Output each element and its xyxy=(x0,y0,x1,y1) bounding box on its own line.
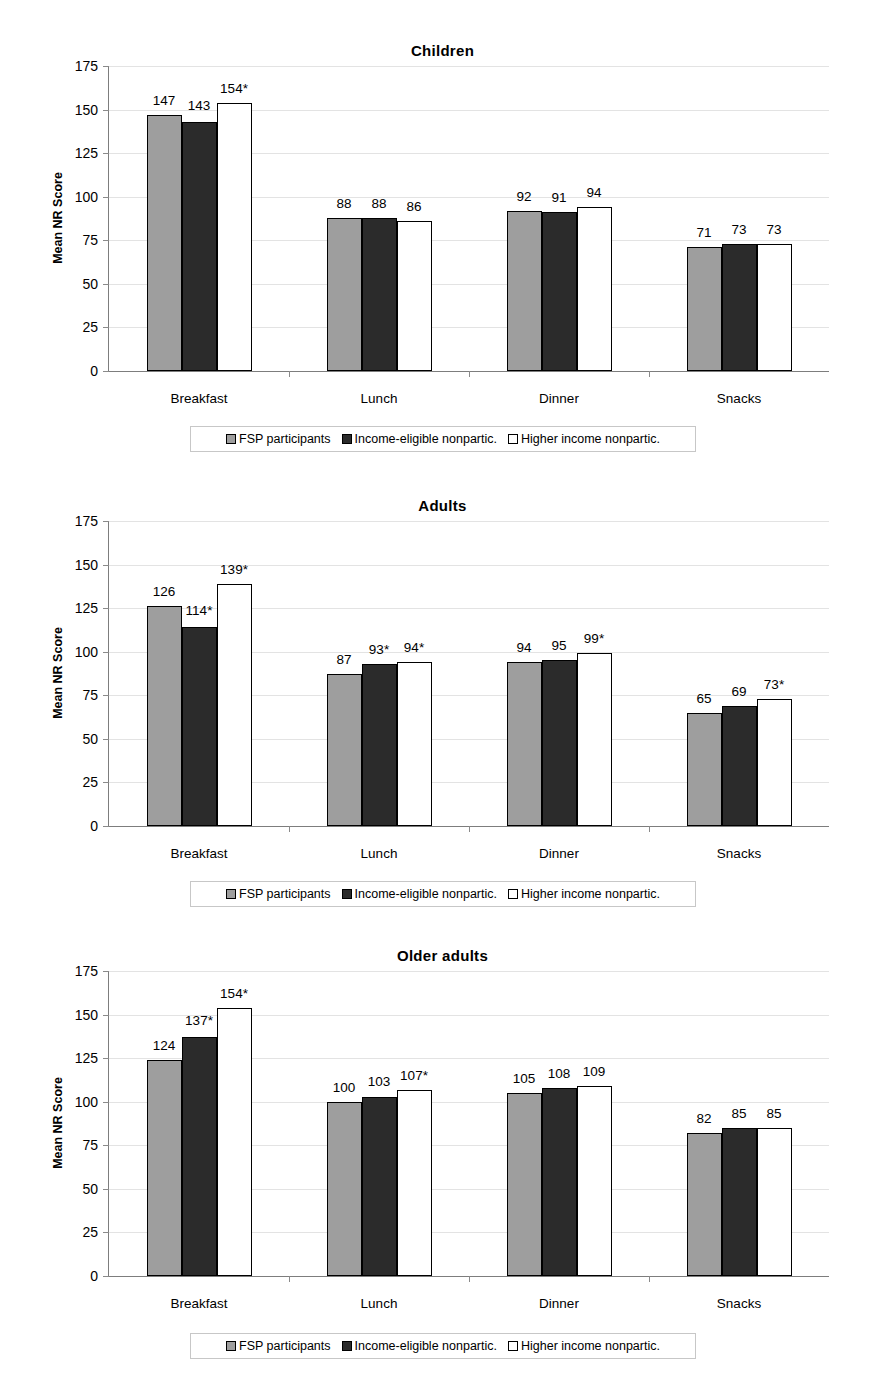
x-axis-category-tick xyxy=(289,826,290,832)
y-axis-tick xyxy=(103,739,109,740)
bar[interactable] xyxy=(327,1102,362,1276)
chart-panel-adults: Adults Mean NR Score 0255075100125150175… xyxy=(0,489,885,919)
bar-value-label: 147 xyxy=(153,93,176,108)
y-axis-tick-label: 125 xyxy=(75,145,98,161)
bar[interactable] xyxy=(507,211,542,371)
bar-value-label: 65 xyxy=(696,691,711,706)
legend-item-label: Income-eligible nonpartic. xyxy=(355,432,497,446)
bar-value-label: 92 xyxy=(516,189,531,204)
y-axis-tick xyxy=(103,652,109,653)
y-axis-tick-label: 0 xyxy=(90,363,98,379)
legend-item[interactable]: Income-eligible nonpartic. xyxy=(342,432,497,446)
legend-item[interactable]: Income-eligible nonpartic. xyxy=(342,1339,497,1353)
light-gray-swatch-icon xyxy=(226,889,236,899)
y-axis-tick xyxy=(103,197,109,198)
legend-item[interactable]: Higher income nonpartic. xyxy=(508,1339,660,1353)
legend-item[interactable]: Higher income nonpartic. xyxy=(508,887,660,901)
bar-value-label: 154* xyxy=(220,81,248,96)
bar[interactable] xyxy=(327,674,362,826)
bar[interactable] xyxy=(542,660,577,826)
bar-value-label: 73* xyxy=(764,677,784,692)
bar[interactable] xyxy=(722,244,757,371)
bar[interactable] xyxy=(182,627,217,826)
bar[interactable] xyxy=(577,207,612,371)
plot-area: 0255075100125150175124137*154*Breakfast1… xyxy=(108,971,829,1277)
bar[interactable] xyxy=(757,244,792,371)
y-axis-tick-label: 150 xyxy=(75,1007,98,1023)
bar[interactable] xyxy=(687,713,722,826)
y-axis-tick-label: 175 xyxy=(75,963,98,979)
y-axis-tick xyxy=(103,521,109,522)
bar[interactable] xyxy=(147,1060,182,1276)
y-axis-tick xyxy=(103,284,109,285)
bar[interactable] xyxy=(397,1090,432,1276)
bar-value-label: 109 xyxy=(583,1064,606,1079)
bar[interactable] xyxy=(147,606,182,826)
white-swatch-icon xyxy=(508,434,518,444)
legend-item[interactable]: Income-eligible nonpartic. xyxy=(342,887,497,901)
legend-item[interactable]: Higher income nonpartic. xyxy=(508,432,660,446)
bar[interactable] xyxy=(507,1093,542,1276)
y-axis-tick xyxy=(103,240,109,241)
grid-line xyxy=(109,971,829,972)
grid-line xyxy=(109,565,829,566)
legend-item-label: Higher income nonpartic. xyxy=(521,887,660,901)
x-axis-category-label: Snacks xyxy=(717,846,761,861)
bar[interactable] xyxy=(217,584,252,826)
chart-title: Adults xyxy=(0,497,885,514)
bar[interactable] xyxy=(542,1088,577,1276)
x-axis-category-label: Breakfast xyxy=(170,1296,227,1311)
bar[interactable] xyxy=(217,103,252,371)
y-axis-tick xyxy=(103,327,109,328)
chart-legend: FSP participantsIncome-eligible nonparti… xyxy=(190,1333,696,1359)
bar[interactable] xyxy=(687,247,722,371)
bar[interactable] xyxy=(687,1133,722,1276)
bar-value-label: 71 xyxy=(696,225,711,240)
x-axis-category-tick xyxy=(469,371,470,377)
legend-item-label: Higher income nonpartic. xyxy=(521,432,660,446)
bar[interactable] xyxy=(577,1086,612,1276)
y-axis-tick-label: 25 xyxy=(82,319,98,335)
legend-item[interactable]: FSP participants xyxy=(226,432,330,446)
bar[interactable] xyxy=(542,212,577,371)
bar[interactable] xyxy=(327,218,362,371)
y-axis-tick-label: 50 xyxy=(82,276,98,292)
chart-panel-older-adults: Older adults Mean NR Score 0255075100125… xyxy=(0,939,885,1371)
bar[interactable] xyxy=(757,1128,792,1276)
light-gray-swatch-icon xyxy=(226,434,236,444)
bar[interactable] xyxy=(182,122,217,371)
y-axis-tick xyxy=(103,565,109,566)
bar[interactable] xyxy=(362,1097,397,1277)
y-axis-tick-label: 0 xyxy=(90,1268,98,1284)
y-axis-tick-label: 175 xyxy=(75,58,98,74)
bar[interactable] xyxy=(397,662,432,826)
x-axis-category-tick xyxy=(289,1276,290,1282)
y-axis-tick-label: 75 xyxy=(82,232,98,248)
bar-value-label: 139* xyxy=(220,562,248,577)
bar[interactable] xyxy=(182,1037,217,1276)
white-swatch-icon xyxy=(508,1341,518,1351)
bar-value-label: 137* xyxy=(185,1013,213,1028)
y-axis-tick xyxy=(103,110,109,111)
dark-gray-swatch-icon xyxy=(342,434,352,444)
bar[interactable] xyxy=(362,664,397,826)
bar[interactable] xyxy=(362,218,397,371)
bar-value-label: 114* xyxy=(186,603,213,618)
bar[interactable] xyxy=(757,699,792,826)
bar[interactable] xyxy=(722,1128,757,1276)
bar[interactable] xyxy=(722,706,757,826)
legend-item[interactable]: FSP participants xyxy=(226,887,330,901)
x-axis-category-tick xyxy=(289,371,290,377)
legend-item[interactable]: FSP participants xyxy=(226,1339,330,1353)
x-axis-category-tick xyxy=(469,1276,470,1282)
y-axis-title: Mean NR Score xyxy=(51,1077,65,1169)
figure-page: Children Mean NR Score 02550751001251501… xyxy=(0,0,885,1379)
bar-value-label: 94* xyxy=(404,640,424,655)
bar[interactable] xyxy=(397,221,432,371)
bar[interactable] xyxy=(507,662,542,826)
bar[interactable] xyxy=(577,653,612,826)
bar-value-label: 85 xyxy=(766,1106,781,1121)
chart-title: Older adults xyxy=(0,947,885,964)
bar[interactable] xyxy=(147,115,182,371)
bar[interactable] xyxy=(217,1008,252,1276)
